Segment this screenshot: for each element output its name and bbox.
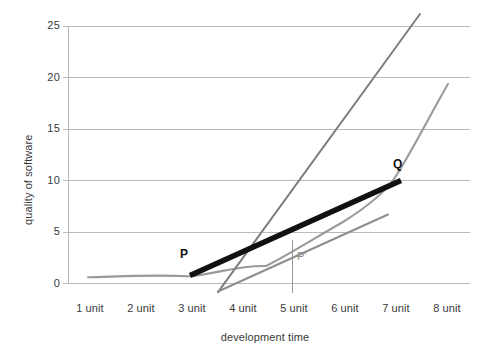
x-tick-label: 5 unit xyxy=(268,302,320,314)
y-tick-label: 10 xyxy=(30,174,60,186)
x-tick-label: 3 unit xyxy=(166,302,218,314)
y-axis-ticks xyxy=(63,27,68,284)
x-tick-label: 7 unit xyxy=(370,302,422,314)
y-tick-label: 15 xyxy=(30,122,60,134)
x-tick-label: 8 unit xyxy=(421,302,473,314)
annotation-point-q: Q xyxy=(393,157,402,171)
x-tick-label: 4 unit xyxy=(217,302,269,314)
annotation-point-p-prime: P' xyxy=(297,250,306,262)
x-tick-label: 2 unit xyxy=(115,302,167,314)
x-axis-title: development time xyxy=(165,331,365,343)
y-axis-title: quality of software xyxy=(22,134,34,225)
y-tick-label: 20 xyxy=(30,71,60,83)
annotation-point-p: P xyxy=(180,247,188,261)
y-tick-label: 25 xyxy=(30,19,60,31)
x-tick-label: 6 unit xyxy=(319,302,371,314)
y-tick-label: 5 xyxy=(30,225,60,237)
x-tick-label: 1 unit xyxy=(64,302,116,314)
y-tick-label: 0 xyxy=(30,277,60,289)
chart-container: 25 20 15 10 5 0 1 unit 2 unit 3 unit 4 u… xyxy=(0,0,495,356)
series-secant-pq xyxy=(190,181,401,276)
